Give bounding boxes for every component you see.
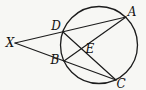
point-label-A: A bbox=[127, 5, 137, 19]
point-label-X: X bbox=[5, 36, 15, 50]
secant-XBC bbox=[15, 43, 116, 80]
point-label-B: B bbox=[50, 53, 60, 67]
chord-BA bbox=[64, 17, 126, 61]
point-label-E: E bbox=[85, 42, 95, 56]
circle bbox=[61, 7, 138, 84]
point-label-C: C bbox=[116, 77, 125, 90]
geometry-figure: X D B E A C bbox=[0, 0, 146, 90]
point-label-D: D bbox=[50, 19, 61, 33]
circle-secant-diagram: X D B E A C bbox=[0, 0, 146, 90]
